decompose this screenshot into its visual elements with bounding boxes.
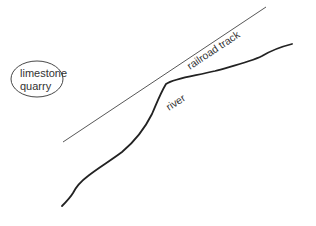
railroad-feature: railroad track xyxy=(63,7,266,142)
river-feature: river xyxy=(62,44,292,206)
river-label: river xyxy=(164,91,188,112)
quarry-feature: limestone quarry xyxy=(11,61,67,97)
railroad-line xyxy=(63,7,266,142)
river-path xyxy=(62,44,292,206)
quarry-label-line1: limestone xyxy=(20,67,67,79)
map-diagram: limestone quarry railroad track river xyxy=(0,0,316,226)
quarry-label-line2: quarry xyxy=(20,80,52,92)
